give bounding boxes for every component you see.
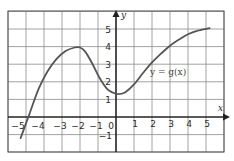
x-axis-label: x <box>218 103 223 113</box>
function-curve <box>21 28 210 138</box>
x-tick-label: −5 <box>11 121 24 131</box>
y-tick-label: 1 <box>105 95 111 105</box>
function-graph: x y −5 −4 −3 −2 −1 0 1 2 3 4 5 5 4 3 2 1… <box>0 0 234 161</box>
function-label: y = g(x) <box>149 67 186 77</box>
x-tick-label: 4 <box>186 119 192 129</box>
x-tick-label: 1 <box>132 119 138 129</box>
x-tick-label: 0 <box>108 121 114 131</box>
x-tick-label: −2 <box>71 121 84 131</box>
x-tick-label: 2 <box>150 119 156 129</box>
y-axis-label: y <box>120 10 127 20</box>
x-axis: x <box>8 103 230 121</box>
y-tick-label: −1 <box>99 131 112 141</box>
y-tick-label: 4 <box>105 42 111 52</box>
x-tick-label: −1 <box>89 121 102 131</box>
x-axis-arrow-icon <box>223 114 230 121</box>
y-tick-label: 3 <box>105 60 111 70</box>
y-tick-label: 5 <box>105 25 111 35</box>
x-tick-labels: −5 −4 −3 −2 −1 0 1 2 3 4 5 <box>11 119 210 131</box>
x-tick-label: 5 <box>204 119 210 129</box>
x-tick-label: 3 <box>168 119 174 129</box>
x-tick-label: −3 <box>53 121 66 131</box>
y-tick-label: 2 <box>105 77 111 87</box>
x-tick-label: −4 <box>31 121 45 131</box>
y-axis: y <box>113 10 128 152</box>
